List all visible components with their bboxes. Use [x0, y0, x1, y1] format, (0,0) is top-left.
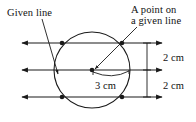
vertical-dimension-group — [143, 43, 151, 97]
bottom-gap-dimension-label: 2 cm — [163, 80, 184, 92]
circle-center-point — [90, 68, 95, 73]
intersection-point-bottom-left — [60, 95, 65, 100]
top-gap-dimension-label: 2 cm — [163, 52, 184, 64]
intersection-point-top-left — [60, 41, 65, 46]
point-on-line-label-line1: A point on — [131, 4, 176, 16]
point-on-line-label-line2: a given line — [131, 15, 181, 27]
radius-measure-arc — [93, 71, 129, 76]
given-line-label: Given line — [7, 7, 52, 19]
given-line-leader-arrow — [42, 19, 58, 74]
intersection-point-bottom-right — [120, 95, 125, 100]
geometry-figure: Given line A point on a given line 3 cm … — [0, 0, 196, 122]
radius-dimension-label: 3 cm — [95, 80, 116, 92]
